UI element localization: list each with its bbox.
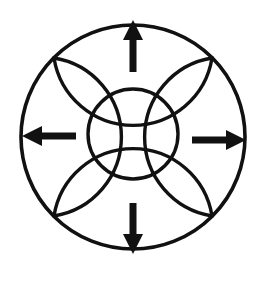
diagram-canvas xyxy=(0,0,264,289)
radial-arrow-diagram xyxy=(0,0,264,289)
